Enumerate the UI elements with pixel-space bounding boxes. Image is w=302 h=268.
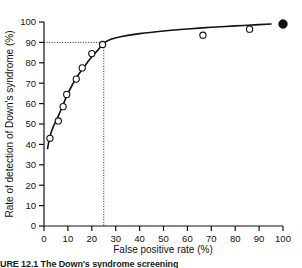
y-tick-label: 70	[25, 78, 36, 89]
x-tick-label: 80	[230, 233, 241, 244]
data-point-open-circle	[47, 135, 53, 141]
x-tick-label: 40	[134, 233, 145, 244]
x-axis-title: False positive rate (%)	[113, 244, 212, 255]
open-circle-markers	[47, 26, 253, 141]
x-tick-label: 30	[110, 233, 121, 244]
x-tick-label: 100	[275, 233, 291, 244]
data-point-open-circle	[89, 51, 95, 57]
y-tick-label: 60	[25, 98, 36, 109]
x-axis-ticks: 0102030405060708090100	[41, 226, 291, 244]
y-axis-title: Rate of detection of Down's syndrome (%)	[4, 31, 15, 218]
data-point-open-circle	[79, 65, 85, 71]
data-point-open-circle	[200, 32, 206, 38]
filled-circle-marker	[279, 20, 287, 28]
x-tick-label: 90	[254, 233, 265, 244]
y-tick-label: 20	[25, 180, 36, 191]
x-tick-label: 10	[63, 233, 74, 244]
y-tick-label: 10	[25, 200, 36, 211]
x-tick-label: 60	[182, 233, 193, 244]
y-tick-label: 100	[20, 16, 36, 27]
x-tick-label: 70	[206, 233, 217, 244]
x-tick-label: 50	[158, 233, 169, 244]
data-point-open-circle	[73, 76, 79, 82]
data-point-open-circle	[60, 104, 66, 110]
data-point-open-circle	[246, 26, 252, 32]
data-point-open-circle	[64, 91, 70, 97]
data-point-filled-circle	[279, 20, 287, 28]
x-tick-label: 20	[87, 233, 98, 244]
x-tick-label: 0	[41, 233, 46, 244]
figure-caption: URE 12.1 The Down's syndrome screening	[0, 259, 178, 268]
y-tick-label: 80	[25, 57, 36, 68]
y-tick-label: 0	[31, 220, 36, 231]
y-tick-label: 30	[25, 159, 36, 170]
y-tick-label: 90	[25, 37, 36, 48]
y-tick-label: 50	[25, 118, 36, 129]
y-tick-label: 40	[25, 139, 36, 150]
y-axis-ticks: 0102030405060708090100	[20, 16, 44, 231]
reference-lines-group	[44, 42, 104, 226]
data-point-open-circle	[55, 118, 61, 124]
data-point-open-circle	[99, 41, 105, 47]
axes-group	[44, 22, 283, 226]
